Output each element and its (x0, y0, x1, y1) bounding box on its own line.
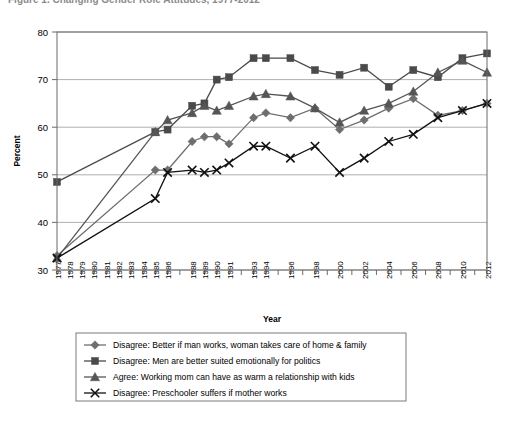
marker-diamond (213, 133, 221, 141)
y-axis-title: Percent (12, 135, 22, 166)
marker-diamond (409, 94, 417, 102)
gridlines-group (57, 32, 487, 270)
chart-legend: Disagree: Better if man works, woman tak… (76, 333, 406, 401)
legend-item[interactable]: Agree: Working mom can have as warm a re… (84, 372, 355, 382)
data-series (53, 99, 491, 262)
marker-triangle (261, 89, 270, 97)
y-tick-label: 40 (37, 217, 48, 228)
marker-diamond (262, 109, 270, 117)
data-series (53, 94, 491, 259)
y-tick-label: 70 (37, 74, 48, 85)
marker-square (164, 126, 171, 133)
marker-triangle (433, 68, 442, 76)
marker-triangle (384, 99, 393, 107)
marker-square (385, 83, 392, 90)
y-axis-group: 807060504030Percent (12, 27, 57, 276)
legend-label: Disagree: Preschooler suffers if mother … (113, 388, 287, 398)
y-tick-label: 80 (37, 27, 48, 38)
marker-triangle (409, 87, 418, 95)
marker-square (287, 55, 294, 62)
marker-diamond (286, 113, 294, 121)
marker-x (385, 137, 393, 145)
legend-label: Agree: Working mom can have as warm a re… (113, 372, 355, 382)
series-line (57, 53, 487, 182)
legend-item[interactable]: Disagree: Preschooler suffers if mother … (84, 388, 287, 398)
series-line (57, 103, 487, 258)
marker-square (336, 71, 343, 78)
marker-square (262, 55, 269, 62)
marker-x (151, 194, 159, 202)
plot-border (57, 32, 487, 270)
marker-square (92, 358, 99, 365)
series-line (57, 99, 487, 256)
plot-frame (57, 32, 487, 270)
marker-x (335, 168, 343, 176)
x-axis-title: Year (263, 314, 282, 324)
marker-square (410, 67, 417, 74)
marker-x (360, 154, 368, 162)
data-series (54, 50, 491, 186)
marker-x (311, 142, 319, 150)
marker-square (361, 64, 368, 71)
marker-triangle (335, 118, 344, 126)
marker-square (312, 67, 319, 74)
marker-diamond (200, 133, 208, 141)
chart-canvas: 807060504030Percent 19771978197919801981… (0, 0, 506, 431)
data-series (52, 56, 491, 262)
y-tick-label: 50 (37, 169, 48, 180)
legend-label: Disagree: Better if man works, woman tak… (113, 340, 367, 350)
marker-square (213, 76, 220, 83)
marker-diamond (360, 116, 368, 124)
legend-item[interactable]: Disagree: Better if man works, woman tak… (84, 340, 367, 350)
marker-triangle (224, 101, 233, 109)
marker-x (286, 154, 294, 162)
marker-square (250, 55, 257, 62)
chart-figure: Figure 1. Changing Gender Role Attitudes… (0, 0, 506, 431)
y-tick-label: 30 (37, 265, 48, 276)
marker-triangle (212, 106, 221, 114)
marker-square (226, 74, 233, 81)
marker-x (409, 130, 417, 138)
marker-x (225, 159, 233, 167)
y-tick-label: 60 (37, 122, 48, 133)
series-line (57, 61, 487, 259)
data-series-group (52, 50, 491, 262)
legend-label: Disagree: Men are better suited emotiona… (113, 356, 320, 366)
chart-title: Figure 1. Changing Gender Role Attitudes… (8, 0, 260, 5)
legend-item[interactable]: Disagree: Men are better suited emotiona… (84, 356, 320, 366)
